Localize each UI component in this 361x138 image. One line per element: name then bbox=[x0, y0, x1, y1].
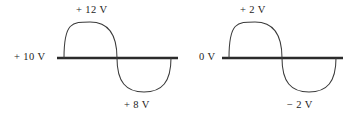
left-trough-label: + 8 V bbox=[124, 100, 150, 111]
right-peak-label: + 2 V bbox=[240, 5, 266, 16]
voltage-waveform-figure: + 10 V + 12 V + 8 V 0 V + 2 V − 2 V bbox=[0, 0, 361, 138]
left-peak-label: + 12 V bbox=[76, 5, 107, 16]
right-trough-label: − 2 V bbox=[287, 100, 313, 111]
waveform-canvas bbox=[0, 0, 361, 138]
left-baseline-label: + 10 V bbox=[14, 52, 45, 63]
right-baseline-label: 0 V bbox=[199, 52, 215, 63]
